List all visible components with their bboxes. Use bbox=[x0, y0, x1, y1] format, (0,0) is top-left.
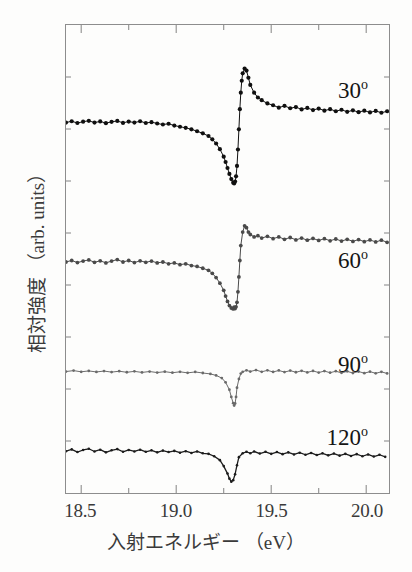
data-points-120 bbox=[66, 447, 386, 482]
label-60: 60o bbox=[338, 248, 368, 274]
spectra-figure: 18.519.019.520.0 入射エネルギー （eV） 相対強度 （arb.… bbox=[0, 0, 412, 572]
label-60-value: 60 bbox=[338, 248, 361, 273]
series-120 bbox=[66, 447, 386, 482]
x-axis-title: 入射エネルギー （eV） bbox=[0, 527, 412, 554]
label-90-degree-symbol: o bbox=[361, 351, 368, 366]
label-120-value: 120 bbox=[327, 425, 362, 450]
label-30-value: 30 bbox=[338, 78, 361, 103]
x-tick-label-20.0: 20.0 bbox=[351, 500, 383, 522]
label-60-degree-symbol: o bbox=[361, 247, 368, 262]
label-30-degree-symbol: o bbox=[361, 77, 368, 92]
x-tick-label-19.0: 19.0 bbox=[160, 500, 192, 522]
label-90-value: 90 bbox=[338, 352, 361, 377]
label-30: 30o bbox=[338, 78, 368, 104]
x-tick-label-19.5: 19.5 bbox=[255, 500, 287, 522]
label-90: 90o bbox=[338, 352, 368, 378]
y-axis-title: 相対強度 （arb. units） bbox=[22, 49, 49, 469]
label-120-degree-symbol: o bbox=[361, 424, 368, 439]
label-120: 120o bbox=[327, 425, 369, 451]
x-tick-label-18.5: 18.5 bbox=[64, 500, 96, 522]
